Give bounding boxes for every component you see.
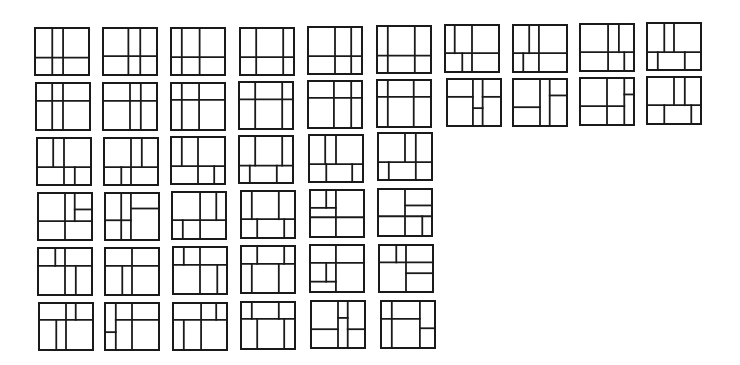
rectangle-partition-icon	[239, 27, 295, 76]
rectangle-partition-icon	[103, 137, 159, 186]
dissection-tile-r6-c4	[240, 301, 296, 350]
outer-border	[377, 26, 431, 73]
outer-border	[580, 24, 634, 71]
rectangle-partition-icon	[512, 78, 568, 127]
dissection-tile-r5-c6	[378, 244, 434, 293]
rectangle-partition-icon	[308, 134, 364, 183]
outer-border	[105, 193, 159, 240]
dissection-tile-r2-c5	[307, 80, 363, 129]
rectangle-partition-icon	[238, 135, 294, 184]
outer-border	[172, 192, 226, 239]
rectangle-partition-icon	[37, 247, 93, 296]
dissection-tile-r5-c3	[172, 246, 228, 295]
dissection-tile-r2-c4	[238, 81, 294, 130]
dissection-diagram-grid	[0, 0, 740, 365]
dissection-tile-r1-c10	[646, 22, 702, 71]
dissection-tile-r2-c6	[376, 79, 432, 128]
dissection-tile-r4-c4	[240, 190, 296, 239]
rectangle-partition-icon	[380, 300, 436, 349]
dissection-tile-r6-c1	[38, 302, 94, 351]
dissection-tile-r6-c5	[310, 300, 366, 349]
rectangle-partition-icon	[104, 302, 160, 351]
outer-border	[173, 303, 227, 350]
dissection-tile-r1-c6	[376, 25, 432, 74]
rectangle-partition-icon	[378, 244, 434, 293]
dissection-tile-r1-c7	[444, 24, 500, 73]
dissection-tile-r6-c3	[172, 302, 228, 351]
rectangle-partition-icon	[172, 302, 228, 351]
rectangle-partition-icon	[172, 246, 228, 295]
outer-border	[171, 28, 225, 75]
outer-border	[381, 301, 435, 348]
outer-border	[240, 28, 294, 75]
outer-border	[308, 81, 362, 128]
dissection-tile-r1-c8	[512, 24, 568, 73]
dissection-tile-r6-c2	[104, 302, 160, 351]
rectangle-partition-icon	[170, 136, 226, 185]
rectangle-partition-icon	[376, 79, 432, 128]
rectangle-partition-icon	[309, 189, 365, 238]
rectangle-partition-icon	[307, 26, 363, 75]
dissection-tile-r3-c3	[170, 136, 226, 185]
rectangle-partition-icon	[102, 82, 158, 131]
dissection-tile-r2-c7	[446, 78, 502, 127]
dissection-tile-r2-c2	[102, 82, 158, 131]
rectangle-partition-icon	[36, 137, 92, 186]
rectangle-partition-icon	[309, 244, 365, 293]
outer-border	[103, 28, 157, 75]
outer-border	[239, 82, 293, 129]
outer-border	[241, 191, 295, 238]
dissection-tile-r1-c1	[34, 27, 90, 76]
dissection-tile-r3-c2	[103, 137, 159, 186]
rectangle-partition-icon	[512, 24, 568, 73]
rectangle-partition-icon	[310, 300, 366, 349]
dissection-tile-r4-c1	[37, 192, 93, 241]
dissection-tile-r4-c6	[377, 188, 433, 237]
dissection-tile-r5-c1	[37, 247, 93, 296]
rectangle-partition-icon	[238, 81, 294, 130]
rectangle-partition-icon	[240, 301, 296, 350]
dissection-tile-r3-c6	[377, 132, 433, 181]
dissection-tile-r4-c5	[309, 189, 365, 238]
dissection-tile-r1-c9	[579, 23, 635, 72]
dissection-tile-r5-c4	[240, 245, 296, 294]
dissection-tile-r2-c3	[170, 82, 226, 131]
dissection-tile-r1-c4	[239, 27, 295, 76]
dissection-tile-r5-c2	[104, 247, 160, 296]
rectangle-partition-icon	[35, 82, 91, 131]
rectangle-partition-icon	[646, 22, 702, 71]
outer-border	[377, 80, 431, 127]
outer-border	[241, 246, 295, 293]
rectangle-partition-icon	[104, 192, 160, 241]
rectangle-partition-icon	[171, 191, 227, 240]
rectangle-partition-icon	[579, 23, 635, 72]
rectangle-partition-icon	[646, 76, 702, 125]
dissection-tile-r2-c9	[579, 77, 635, 126]
dissection-tile-r2-c1	[35, 82, 91, 131]
rectangle-partition-icon	[377, 188, 433, 237]
outer-border	[310, 190, 364, 237]
outer-border	[171, 83, 225, 130]
outer-border	[239, 136, 293, 183]
dissection-tile-r4-c3	[171, 191, 227, 240]
dissection-tile-r3-c4	[238, 135, 294, 184]
dissection-tile-r2-c8	[512, 78, 568, 127]
rectangle-partition-icon	[102, 27, 158, 76]
outer-border	[447, 79, 501, 126]
dissection-tile-r1-c2	[102, 27, 158, 76]
rectangle-partition-icon	[240, 245, 296, 294]
dissection-tile-r2-c10	[646, 76, 702, 125]
rectangle-partition-icon	[307, 80, 363, 129]
dissection-tile-r5-c5	[309, 244, 365, 293]
rectangle-partition-icon	[579, 77, 635, 126]
rectangle-partition-icon	[240, 190, 296, 239]
rectangle-partition-icon	[444, 24, 500, 73]
outer-border	[241, 302, 295, 349]
rectangle-partition-icon	[38, 302, 94, 351]
rectangle-partition-icon	[446, 78, 502, 127]
outer-border	[35, 28, 89, 75]
rectangle-partition-icon	[376, 25, 432, 74]
rectangle-partition-icon	[170, 82, 226, 131]
dissection-tile-r1-c3	[170, 27, 226, 76]
outer-border	[310, 245, 364, 292]
